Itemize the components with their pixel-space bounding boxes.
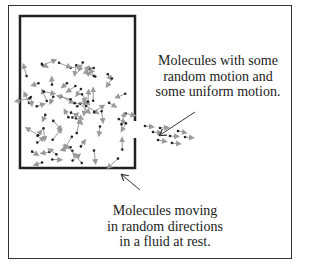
label-line: random motion and (143, 69, 293, 85)
label-line: Molecules moving (60, 203, 270, 219)
container (20, 16, 135, 168)
label-random-motion: Molecules moving in random directions in… (60, 203, 270, 250)
pointer-arrow-bottom (122, 175, 140, 190)
label-line: in a fluid at rest. (60, 234, 270, 250)
label-line: some uniform motion. (143, 84, 293, 100)
label-line: Molecules with some (143, 53, 293, 69)
label-line: in random directions (60, 219, 270, 235)
label-uniform-motion: Molecules with some random motion and so… (143, 53, 293, 100)
